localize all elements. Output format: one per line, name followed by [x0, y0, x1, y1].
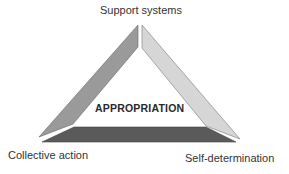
vertex-label-bottom-right: Self-determination: [185, 152, 274, 164]
right-bar-support-self: [142, 25, 240, 139]
center-label: APPROPRIATION: [95, 102, 184, 114]
bottom-bar-collective-self: [42, 127, 236, 142]
vertex-label-bottom-left: Collective action: [8, 149, 88, 161]
vertex-label-top: Support systems: [100, 4, 182, 16]
triangle-diagram: [0, 0, 289, 174]
left-bar-collective-support: [39, 25, 138, 137]
